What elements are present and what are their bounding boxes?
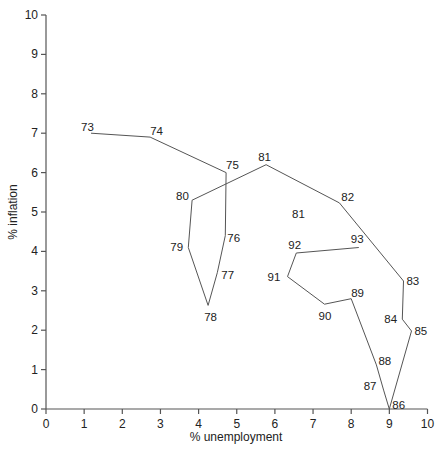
year-label: 83: [406, 275, 419, 287]
year-label: 89: [351, 287, 364, 299]
x-tick-label: 0: [43, 417, 50, 431]
year-label: 87: [364, 380, 377, 392]
x-tick-label: 1: [81, 417, 88, 431]
x-axis: 012345678910: [43, 409, 435, 431]
x-tick-label: 7: [310, 417, 317, 431]
x-axis-title: % unemployment: [190, 430, 283, 444]
y-axis-title: % inflation: [6, 184, 20, 239]
x-tick-label: 3: [157, 417, 164, 431]
year-label: 78: [204, 311, 217, 323]
year-label: 92: [288, 239, 301, 251]
year-label: 82: [341, 191, 354, 203]
annotation-label: 81: [292, 208, 305, 220]
y-tick-label: 1: [31, 363, 38, 377]
series-line: [91, 133, 412, 409]
year-label: 76: [227, 232, 240, 244]
y-tick-label: 8: [31, 87, 38, 101]
year-label: 86: [392, 399, 405, 411]
year-label: 74: [150, 125, 163, 137]
year-label: 85: [414, 325, 427, 337]
y-tick-label: 4: [31, 244, 38, 258]
y-axis: 012345678910: [25, 8, 46, 416]
annotations: 81: [292, 208, 305, 220]
y-tick-label: 10: [25, 8, 39, 22]
y-tick-label: 2: [31, 323, 38, 337]
year-label: 73: [81, 121, 94, 133]
phillips-curve-chart: 012345678910 012345678910 73747576777879…: [0, 0, 443, 456]
x-tick-label: 6: [272, 417, 279, 431]
year-label: 77: [221, 269, 234, 281]
year-label: 80: [176, 190, 189, 202]
year-label: 84: [384, 313, 397, 325]
y-tick-label: 7: [31, 126, 38, 140]
year-label: 91: [267, 271, 280, 283]
y-tick-label: 3: [31, 284, 38, 298]
y-tick-label: 5: [31, 205, 38, 219]
year-label: 81: [258, 151, 271, 163]
year-label: 75: [226, 159, 239, 171]
year-labels: 7374757677787980818283848586878889909192…: [81, 121, 427, 411]
x-tick-label: 5: [233, 417, 240, 431]
year-label: 79: [170, 241, 183, 253]
x-tick-label: 2: [119, 417, 126, 431]
data-series-path: [91, 133, 412, 409]
y-tick-label: 6: [31, 166, 38, 180]
year-label: 93: [351, 233, 364, 245]
year-label: 90: [318, 310, 331, 322]
x-tick-label: 4: [195, 417, 202, 431]
x-tick-label: 10: [421, 417, 435, 431]
y-tick-label: 9: [31, 47, 38, 61]
x-tick-label: 8: [348, 417, 355, 431]
chart-canvas: 012345678910 012345678910 73747576777879…: [0, 0, 443, 456]
x-tick-label: 9: [386, 417, 393, 431]
year-label: 88: [378, 355, 391, 367]
y-tick-label: 0: [31, 402, 38, 416]
